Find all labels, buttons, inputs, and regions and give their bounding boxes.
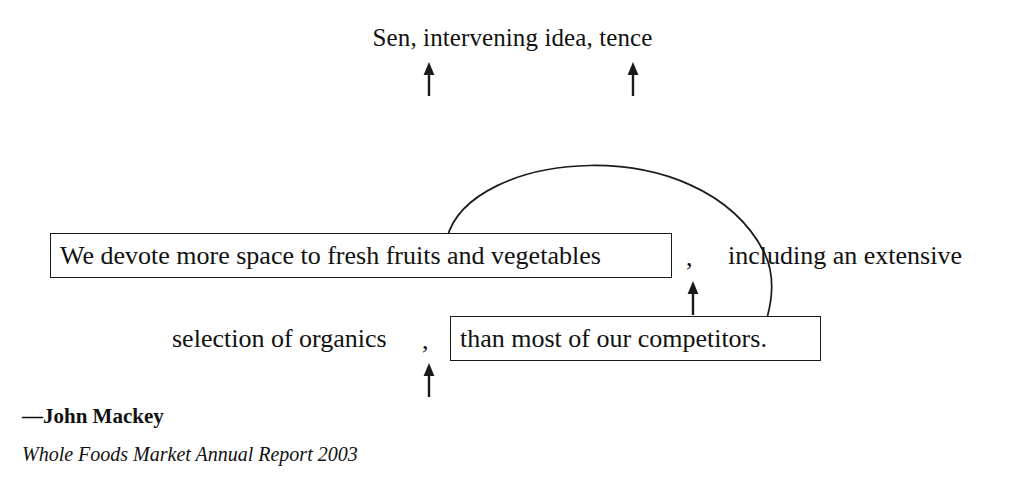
sentence-box-1: We devote more space to fresh fruits and… bbox=[50, 233, 672, 278]
comma-after-organics: , bbox=[422, 328, 429, 354]
line2-leading-text: selection of organics bbox=[172, 326, 387, 352]
sentence-diagram-figure: Sen, intervening idea, tence We devote m… bbox=[0, 0, 1025, 491]
attribution-author: —John Mackey bbox=[22, 404, 164, 429]
line1-trailing-text: including an extensive bbox=[728, 243, 962, 269]
arrow-up-icon-comma-2 bbox=[419, 363, 439, 397]
sentence-box-2: than most of our competitors. bbox=[450, 316, 821, 361]
arrow-up-icon-comma-1 bbox=[683, 281, 703, 315]
attribution-source: Whole Foods Market Annual Report 2003 bbox=[22, 443, 358, 466]
comma-after-vegetables: , bbox=[686, 245, 693, 271]
